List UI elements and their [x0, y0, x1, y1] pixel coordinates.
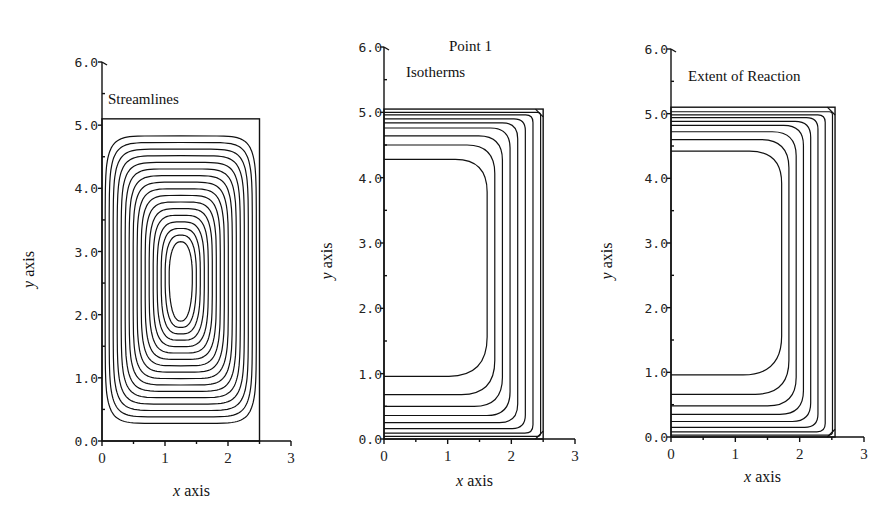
y-tick-label: 6.0: [75, 55, 98, 70]
y-tick-label: 5.0: [359, 105, 382, 120]
figure-title: Point 1: [449, 38, 492, 54]
y-tick-label: 2.0: [75, 308, 98, 323]
contour-line: [671, 151, 782, 375]
y-axis-label: y axis: [318, 243, 336, 282]
streamline-contour: [133, 182, 228, 378]
y-tick-label: 4.0: [75, 181, 98, 196]
y-tick-label: 0.0: [645, 430, 668, 445]
isotherms-panel: 0.01.02.03.04.05.06.00123x axisy axisIso…: [318, 40, 579, 489]
y-tick-label: 5.0: [645, 107, 668, 122]
streamline-contour: [149, 209, 212, 353]
y-tick-label: 0.0: [359, 432, 382, 447]
x-tick-label: 1: [444, 448, 452, 464]
y-tick-label: 4.0: [359, 171, 382, 186]
x-tick-label: 0: [98, 450, 106, 466]
contour-line: [671, 112, 832, 435]
x-tick-label: 2: [508, 448, 516, 464]
streamline-contour: [109, 143, 252, 417]
y-tick-label: 1.0: [75, 371, 98, 386]
contour-line: [384, 128, 510, 415]
y-tick-label: 2.0: [645, 301, 668, 316]
x-tick-label: 1: [732, 446, 740, 462]
contour-figure: Point 1 0.01.02.03.04.05.06.00123x axisy…: [0, 0, 895, 520]
contour-line: [671, 125, 803, 414]
x-tick-label: 3: [860, 446, 868, 462]
streamline-contour: [169, 242, 192, 321]
streamline-contour: [121, 162, 240, 397]
streamline-contour: [117, 156, 244, 404]
y-tick-label: 2.0: [359, 301, 382, 316]
y-axis-label: y axis: [598, 243, 616, 282]
y-tick-label: 3.0: [359, 236, 382, 251]
x-tick-label: 3: [287, 450, 295, 466]
y-tick-label: 3.0: [645, 236, 668, 251]
contour-line: [671, 115, 825, 432]
y-axis-label: y axis: [20, 251, 38, 290]
x-tick-label: 0: [667, 446, 675, 462]
x-tick-label: 3: [571, 448, 579, 464]
contour-line: [384, 123, 518, 423]
x-tick-label: 1: [161, 450, 169, 466]
x-tick-label: 2: [796, 446, 804, 462]
y-tick-label: 0.0: [75, 434, 98, 449]
streamline-contour: [161, 229, 200, 334]
domain-boundary: [384, 109, 543, 439]
x-axis-label: x axis: [455, 472, 493, 489]
y-tick-label: 1.0: [645, 365, 668, 380]
contour-line: [671, 121, 811, 421]
contour-line: [671, 140, 789, 395]
panel-title: Streamlines: [108, 91, 179, 107]
y-tick-label: 5.0: [75, 118, 98, 133]
streamline-contour: [137, 189, 224, 372]
streamlines-panel: 0.01.02.03.04.05.06.00123x axisy axisStr…: [20, 55, 295, 499]
streamline-contour: [145, 202, 216, 359]
y-tick-label: 4.0: [645, 171, 668, 186]
y-tick-label: 1.0: [359, 367, 382, 382]
panel-title: Isotherms: [406, 64, 465, 80]
streamline-contour: [105, 136, 256, 423]
extent-of-reaction-panel: 0.01.02.03.04.05.06.00123x axisy axisExt…: [598, 42, 868, 485]
streamline-contour: [165, 235, 196, 327]
y-tick-label: 6.0: [359, 40, 382, 55]
contour-line: [384, 145, 495, 395]
panel-title: Extent of Reaction: [688, 68, 801, 84]
contour-line: [384, 159, 487, 376]
contour-line: [671, 132, 796, 406]
x-tick-label: 0: [380, 448, 388, 464]
y-tick-label: 6.0: [645, 42, 668, 57]
y-tick-label: 3.0: [75, 245, 98, 260]
x-axis-label: x axis: [172, 482, 210, 499]
x-tick-label: 2: [224, 450, 232, 466]
x-axis-label: x axis: [743, 468, 781, 485]
contour-line: [384, 119, 525, 429]
